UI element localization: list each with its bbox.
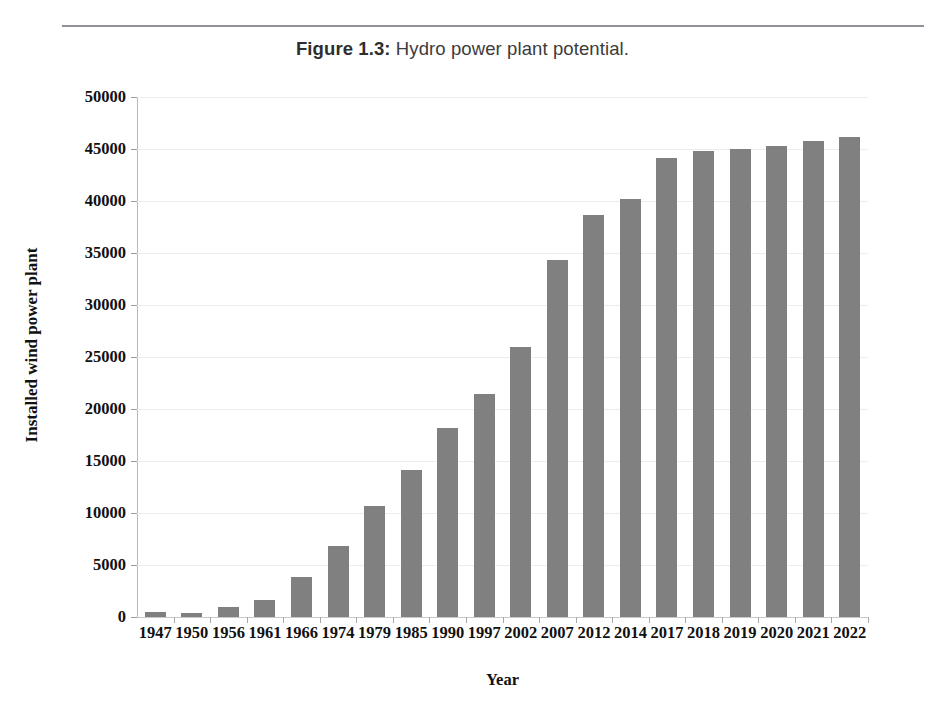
x-axis-tick	[795, 617, 796, 623]
y-axis-tick-label: 30000	[56, 297, 126, 314]
y-axis-tick-label: 0	[56, 609, 126, 626]
y-axis-tick-label: 45000	[56, 141, 126, 158]
bar	[328, 546, 349, 617]
y-axis-tick-label: 5000	[56, 557, 126, 574]
y-axis-tick-label: 20000	[56, 401, 126, 418]
y-axis-tick-label: 25000	[56, 349, 126, 366]
y-axis-tick-label: 15000	[56, 453, 126, 470]
figure-caption-text: Hydro power plant potential.	[391, 38, 629, 59]
bar	[730, 149, 751, 617]
figure-caption-label: Figure 1.3:	[296, 38, 391, 59]
bar	[766, 146, 787, 617]
x-axis-tick-label: 2022	[823, 625, 877, 642]
x-axis-tick	[466, 617, 467, 623]
bar	[693, 151, 714, 617]
bar	[401, 470, 422, 617]
x-axis-tick	[393, 617, 394, 623]
x-axis-tick	[612, 617, 613, 623]
bar	[437, 428, 458, 617]
bar	[254, 600, 275, 617]
y-axis-tick-label: 35000	[56, 245, 126, 262]
bar	[620, 199, 641, 617]
caption-divider	[62, 25, 924, 27]
y-axis-tick	[131, 617, 137, 618]
bar	[291, 577, 312, 617]
bar	[364, 506, 385, 617]
y-axis-tick-label: 50000	[56, 89, 126, 106]
bar	[656, 158, 677, 617]
bar	[474, 394, 495, 617]
figure-caption: Figure 1.3: Hydro power plant potential.	[0, 38, 925, 60]
bar	[510, 347, 531, 617]
x-axis-tick	[210, 617, 211, 623]
bar	[218, 607, 239, 617]
y-axis-tick-label: 40000	[56, 193, 126, 210]
x-axis-tick	[722, 617, 723, 623]
bar	[803, 141, 824, 617]
x-axis-title: Year	[137, 670, 868, 690]
bar-chart: Installed wind power plant 0500010000150…	[0, 80, 925, 700]
x-axis-tick	[539, 617, 540, 623]
bar	[181, 613, 202, 617]
plot-area	[137, 97, 868, 617]
bar	[839, 137, 860, 617]
bar	[145, 612, 166, 617]
x-axis-tick	[320, 617, 321, 623]
y-axis-tick-label: 10000	[56, 505, 126, 522]
x-axis-tick	[868, 617, 869, 623]
y-axis-title: Installed wind power plant	[22, 195, 42, 495]
bar	[583, 215, 604, 617]
bar	[547, 260, 568, 617]
